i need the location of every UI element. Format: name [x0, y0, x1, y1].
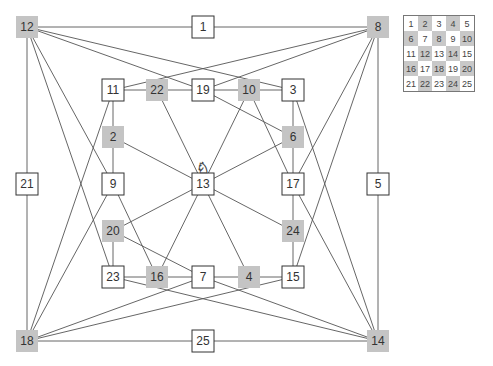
edge-10-13	[203, 90, 249, 184]
svg-text:6: 6	[290, 130, 297, 144]
board-cell-24: 24	[446, 76, 460, 91]
board-cell-19: 19	[446, 61, 460, 76]
board-cell-6: 6	[404, 31, 418, 46]
svg-text:21: 21	[20, 177, 34, 191]
edge-14-17	[293, 184, 378, 341]
edge-12-23	[27, 27, 113, 277]
board-cell-23: 23	[432, 76, 446, 91]
board-cell-3: 3	[432, 16, 446, 31]
node-8[interactable]: 8	[367, 16, 389, 38]
node-21[interactable]: 21	[16, 173, 38, 195]
svg-text:14: 14	[371, 334, 385, 348]
edge-9-12	[27, 27, 113, 184]
node-24[interactable]: 24	[282, 220, 304, 242]
svg-text:19: 19	[196, 83, 210, 97]
board-cell-7: 7	[418, 31, 432, 46]
svg-text:17: 17	[286, 177, 300, 191]
knight-icon: ♘	[196, 159, 209, 177]
node-9[interactable]: 9	[102, 173, 124, 195]
node-4[interactable]: 4	[238, 266, 260, 288]
node-20[interactable]: 20	[102, 220, 124, 242]
edge-4-13	[203, 184, 249, 277]
node-15[interactable]: 15	[282, 266, 304, 288]
board-cell-5: 5	[460, 16, 474, 31]
edge-8-17	[293, 27, 378, 184]
board-cell-10: 10	[460, 31, 474, 46]
svg-text:20: 20	[106, 224, 120, 238]
svg-text:11: 11	[107, 83, 120, 97]
node-19[interactable]: 19	[192, 79, 214, 101]
node-1[interactable]: 1	[192, 16, 214, 38]
board-legend: 1234567891011121314151617181920212223242…	[403, 15, 475, 92]
node-18[interactable]: 18	[16, 330, 38, 352]
node-17[interactable]: 17	[282, 173, 304, 195]
board-cell-12: 12	[418, 46, 432, 61]
svg-text:9: 9	[110, 177, 117, 191]
svg-text:22: 22	[150, 83, 164, 97]
node-7[interactable]: 7	[192, 266, 214, 288]
board-cell-21: 21	[404, 76, 418, 91]
node-10[interactable]: 10	[238, 79, 260, 101]
svg-text:15: 15	[286, 270, 300, 284]
board-cell-9: 9	[446, 31, 460, 46]
svg-text:8: 8	[375, 20, 382, 34]
board-cell-25: 25	[460, 76, 474, 91]
svg-text:3: 3	[290, 83, 297, 97]
board-cell-2: 2	[418, 16, 432, 31]
board-cell-18: 18	[432, 61, 446, 76]
edge-8-15	[293, 27, 378, 277]
edge-13-24	[203, 184, 293, 231]
edge-2-13	[113, 137, 203, 184]
board-cell-8: 8	[432, 31, 446, 46]
board-cell-13: 13	[432, 46, 446, 61]
svg-text:♘: ♘	[196, 159, 209, 177]
edge-3-14	[293, 90, 378, 341]
svg-text:1: 1	[200, 20, 207, 34]
svg-text:13: 13	[196, 177, 210, 191]
edge-6-13	[203, 137, 293, 184]
board-cell-1: 1	[404, 16, 418, 31]
svg-text:2: 2	[110, 130, 117, 144]
svg-text:24: 24	[286, 224, 300, 238]
svg-text:25: 25	[196, 334, 210, 348]
board-cell-11: 11	[404, 46, 418, 61]
board-cell-22: 22	[418, 76, 432, 91]
svg-text:18: 18	[20, 334, 34, 348]
node-5[interactable]: 5	[367, 173, 389, 195]
node-25[interactable]: 25	[192, 330, 214, 352]
node-2[interactable]: 2	[102, 126, 124, 148]
edge-11-18	[27, 90, 113, 341]
node-16[interactable]: 16	[146, 266, 168, 288]
board-cell-15: 15	[460, 46, 474, 61]
node-14[interactable]: 14	[367, 330, 389, 352]
nodes: 1218112219103262191317520242316741518251…	[16, 16, 389, 352]
node-12[interactable]: 12	[16, 16, 38, 38]
svg-text:16: 16	[150, 270, 164, 284]
node-3[interactable]: 3	[282, 79, 304, 101]
svg-text:10: 10	[242, 83, 256, 97]
svg-text:4: 4	[246, 270, 253, 284]
node-11[interactable]: 11	[102, 79, 124, 101]
edge-9-18	[27, 184, 113, 341]
board-cell-17: 17	[418, 61, 432, 76]
board-cell-16: 16	[404, 61, 418, 76]
board-cell-4: 4	[446, 16, 460, 31]
edge-13-16	[157, 184, 203, 277]
node-22[interactable]: 22	[146, 79, 168, 101]
svg-text:5: 5	[375, 177, 382, 191]
svg-text:7: 7	[200, 270, 207, 284]
board-cell-20: 20	[460, 61, 474, 76]
edge-13-20	[113, 184, 203, 231]
node-23[interactable]: 23	[102, 266, 124, 288]
board-cell-14: 14	[446, 46, 460, 61]
node-6[interactable]: 6	[282, 126, 304, 148]
svg-text:12: 12	[20, 20, 34, 34]
svg-text:23: 23	[106, 270, 120, 284]
